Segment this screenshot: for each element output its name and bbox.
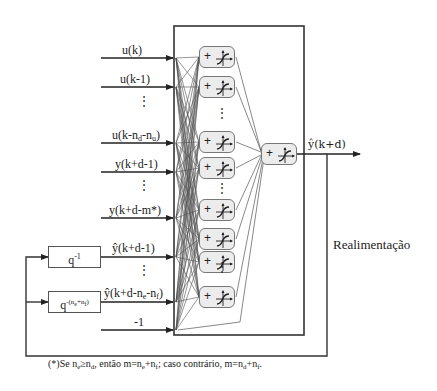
sum-symbol: + [204, 135, 211, 147]
activation-sigmoid-icon [214, 202, 234, 220]
input-hidden-connections [176, 57, 199, 330]
fn-part: ≥n [80, 358, 91, 369]
ellipsis-hidden-3: ⋮ [216, 265, 228, 269]
input-label-yhat-k-d-ne-nf: ŷ(k+d-ne-nf) [104, 287, 163, 301]
delay-qn-exp-tail: ) [86, 298, 88, 306]
hidden-neuron: + [199, 157, 235, 179]
activation-sigmoid-icon [214, 231, 234, 249]
input-label-u-k: u(k) [122, 44, 142, 56]
input-label-bias: -1 [134, 316, 144, 328]
sum-symbol: + [204, 203, 211, 215]
sum-symbol: + [204, 232, 211, 244]
input-label-y-k-d-m: y(k+d-m*) [109, 204, 161, 216]
delay-block-q1: q-1 [48, 246, 101, 268]
fn-part: ; caso contrário, m=n [158, 358, 243, 369]
hidden-neuron: + [199, 46, 235, 68]
input-label-u-k-nd-nu: u(k-nd-nu) [112, 129, 160, 143]
u-nd-nu-tail: ) [156, 128, 160, 142]
fn-part: , então m=n [94, 358, 142, 369]
footnote: (*)Se ne≥nd, então m=ne+nf; caso contrár… [48, 358, 262, 371]
input-label-yhat-k-d-1: ŷ(k+d-1) [112, 242, 155, 254]
output-neuron: + [261, 143, 297, 165]
fn-part: (*)Se n [48, 358, 77, 369]
sum-symbol: + [204, 255, 211, 267]
u-nd-nu-prefix: u(k-n [112, 128, 138, 142]
ellipsis-hidden-2: ⋮ [216, 186, 228, 190]
u-nd-nu-mid: -n [142, 128, 152, 142]
hidden-neuron: + [199, 131, 235, 153]
hidden-neuron: + [199, 76, 235, 98]
sum-symbol: + [204, 161, 211, 173]
hidden-neuron: + [199, 286, 235, 308]
delay-block-qn: q-(ne+nf) [48, 291, 101, 313]
ellipsis-yhat: ⋮ [138, 268, 150, 272]
activation-sigmoid-icon [214, 79, 234, 97]
yhat-ne-nf-prefix: ŷ(k+d-n [104, 286, 143, 300]
yhat-ne-nf-mid: -n [146, 286, 156, 300]
activation-sigmoid-icon [214, 289, 234, 307]
ellipsis-u: ⋮ [138, 99, 150, 103]
feedback-label: Realimentação [333, 237, 410, 253]
yhat-ne-nf-tail: ) [159, 286, 163, 300]
sum-symbol: + [266, 147, 273, 159]
input-label-y-k-d-1: y(k+d-1) [115, 158, 158, 170]
activation-sigmoid-icon [214, 160, 234, 178]
delay-q1-exponent: -1 [74, 252, 81, 261]
sum-symbol: + [204, 80, 211, 92]
sum-symbol: + [204, 290, 211, 302]
input-label-u-k-1: u(k-1) [120, 73, 150, 85]
fn-part: . [260, 358, 263, 369]
activation-sigmoid-icon [214, 49, 234, 67]
hidden-neuron: + [199, 228, 235, 250]
hidden-neuron: + [199, 199, 235, 221]
output-label: ŷ(k+d) [308, 139, 346, 150]
sum-symbol: + [204, 50, 211, 62]
ellipsis-hidden-1: ⋮ [216, 111, 228, 115]
fn-part: +n [145, 358, 156, 369]
ellipsis-y: ⋮ [138, 183, 150, 187]
fn-part: +n [247, 358, 258, 369]
activation-sigmoid-icon [276, 146, 296, 164]
activation-sigmoid-icon [214, 134, 234, 152]
